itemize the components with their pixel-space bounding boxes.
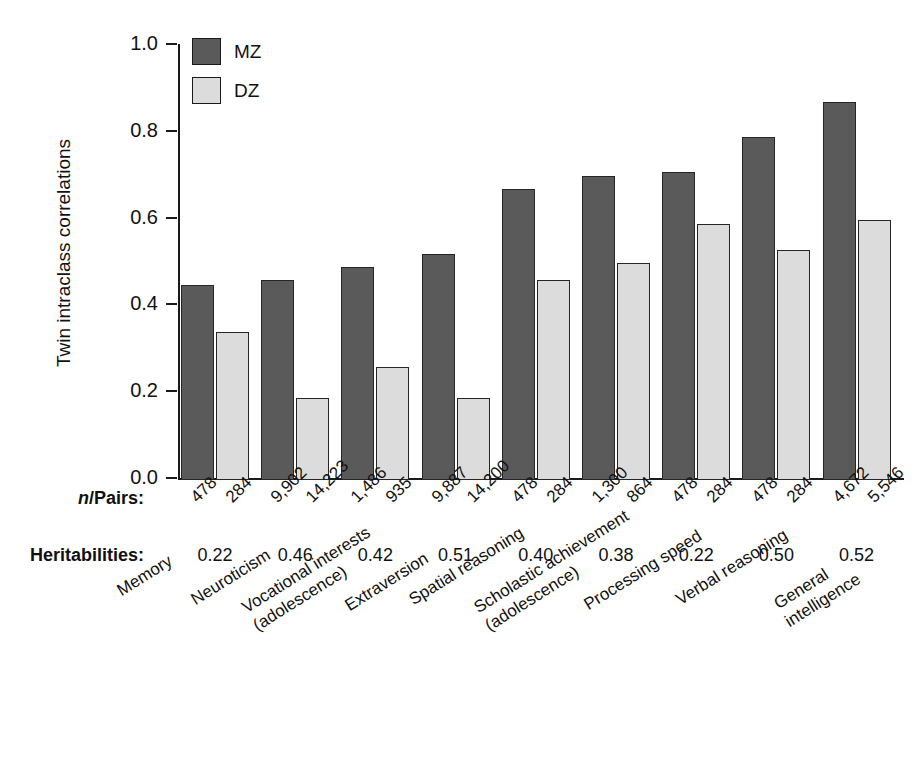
y-axis-tick-label: 0.0 bbox=[96, 467, 158, 487]
heritabilities-row-label: Heritabilities: bbox=[30, 545, 144, 566]
npairs-label-n: n bbox=[78, 488, 89, 508]
bar-mz-3 bbox=[422, 254, 455, 480]
y-axis-title: Twin intraclass correlations bbox=[53, 103, 75, 403]
category-label: Scholastic achievement(adolescence) bbox=[470, 505, 644, 635]
bar-mz-0 bbox=[181, 285, 214, 480]
bar-dz-5 bbox=[617, 263, 650, 480]
bar-dz-6 bbox=[697, 224, 730, 480]
y-axis-tick-mark bbox=[166, 477, 177, 479]
bar-dz-8 bbox=[858, 220, 891, 480]
y-axis-tick-mark bbox=[166, 390, 177, 392]
y-axis-tick-label: 0.8 bbox=[96, 120, 158, 140]
y-axis-tick-mark bbox=[166, 217, 177, 219]
bar-dz-0 bbox=[216, 332, 249, 480]
bar-mz-8 bbox=[823, 102, 856, 480]
npairs-label-suffix: /Pairs: bbox=[89, 488, 144, 508]
bar-mz-4 bbox=[502, 189, 535, 480]
chart-figure: Twin intraclass correlations 1.00.80.60.… bbox=[0, 0, 917, 759]
bar-dz-7 bbox=[777, 250, 810, 480]
category-label: Vocational interests(adolescence) bbox=[238, 522, 385, 636]
y-axis-tick-mark bbox=[166, 130, 177, 132]
bar-dz-2 bbox=[376, 367, 409, 480]
y-axis-tick-mark bbox=[166, 43, 177, 45]
y-axis-tick-label: 0.2 bbox=[96, 380, 158, 400]
y-axis-tick-label: 0.4 bbox=[96, 293, 158, 313]
y-axis-tick-mark bbox=[166, 303, 177, 305]
plot-area bbox=[180, 44, 904, 480]
bar-mz-6 bbox=[662, 172, 695, 480]
npairs-row-label: n/Pairs: bbox=[78, 488, 144, 509]
bar-mz-7 bbox=[742, 137, 775, 480]
bar-dz-4 bbox=[537, 280, 570, 480]
bar-mz-1 bbox=[261, 280, 294, 480]
y-axis-tick-label: 0.6 bbox=[96, 207, 158, 227]
bar-mz-5 bbox=[582, 176, 615, 480]
bar-mz-2 bbox=[341, 267, 374, 480]
y-axis-tick-label: 1.0 bbox=[96, 33, 158, 53]
